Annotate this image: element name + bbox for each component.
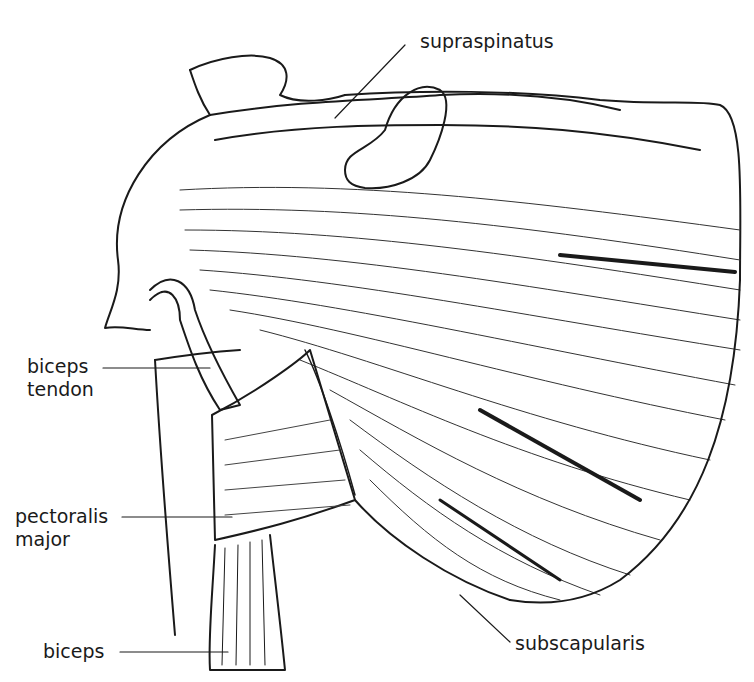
label-pectoralis-major-line2: major xyxy=(15,528,70,550)
label-pectoralis-major-line1: pectoralis xyxy=(15,505,108,527)
biceps-tendon xyxy=(150,280,240,410)
label-biceps-tendon-line1: biceps xyxy=(27,355,88,377)
label-biceps: biceps xyxy=(43,640,104,662)
biceps-muscle xyxy=(209,535,285,670)
scapula-outline xyxy=(105,115,210,330)
acromion xyxy=(190,56,345,101)
humerus xyxy=(155,360,175,635)
label-supraspinatus: supraspinatus xyxy=(420,30,554,52)
shoulder-anatomy-illustration xyxy=(0,0,754,682)
coracoid xyxy=(345,87,446,188)
label-subscapularis: subscapularis xyxy=(515,632,645,654)
label-biceps-tendon-line2: tendon xyxy=(27,378,94,400)
pectoralis-major xyxy=(212,350,355,540)
